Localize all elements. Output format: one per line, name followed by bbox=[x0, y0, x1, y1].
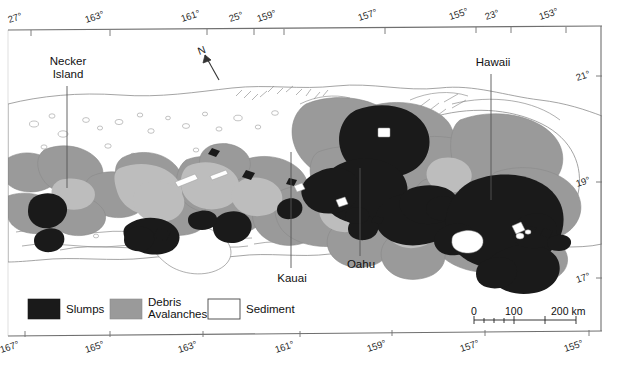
map-canvas bbox=[0, 0, 639, 380]
legend-swatch-sediment bbox=[208, 299, 240, 319]
map-figure: 27° 163° 161° 25° 159° 157° 155° 23° 153… bbox=[0, 0, 639, 380]
legend-swatch-debris-avalanches bbox=[110, 299, 142, 319]
legend-swatches bbox=[28, 299, 240, 319]
scale-bar-graphic bbox=[474, 316, 576, 324]
legend-swatch-slumps bbox=[28, 299, 60, 319]
north-arrow-icon bbox=[203, 55, 219, 80]
